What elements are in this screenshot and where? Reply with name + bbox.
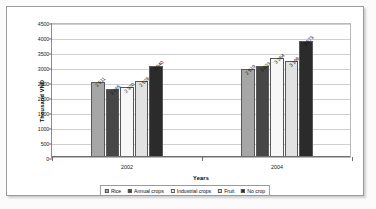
bar: [120, 87, 134, 157]
legend-label: No crop: [247, 188, 265, 194]
x-axis-line: [52, 156, 350, 157]
x-axis-category-label: 2002: [121, 164, 133, 170]
legend-label: Rice: [111, 188, 121, 194]
y-axis-tick-label: 1000: [38, 126, 49, 132]
bar: [256, 66, 270, 157]
x-axis-tick-mark: [352, 157, 353, 161]
y-axis-tick-label: 2500: [38, 81, 49, 87]
bar: [285, 61, 299, 157]
bars-layer: 2 5112 2652 3202 5283 0402 9193 0333 284…: [52, 24, 350, 157]
x-axis-title: Years: [51, 175, 351, 181]
legend-swatch-icon: [105, 189, 109, 193]
legend-label: Industrial crops: [177, 188, 211, 194]
legend-label: Fruit: [224, 188, 234, 194]
y-axis-tick-label: 4500: [38, 21, 49, 27]
legend-item: Fruit: [218, 188, 234, 194]
chart-page: Thousand VND 050010001500200025003000350…: [0, 0, 376, 209]
x-axis-tick-mark: [52, 157, 53, 161]
legend-swatch-icon: [171, 189, 175, 193]
x-axis-category-label: 2004: [271, 164, 283, 170]
legend-item: Annual crops: [128, 188, 164, 194]
plot-area: 050010001500200025003000350040004500 2 5…: [51, 23, 351, 158]
chart-outer-frame: Thousand VND 050010001500200025003000350…: [6, 6, 364, 196]
bar: [106, 89, 120, 157]
bar: [149, 66, 163, 157]
bar: [241, 69, 255, 157]
legend-item: Industrial crops: [171, 188, 211, 194]
legend-swatch-icon: [128, 189, 132, 193]
y-axis-tick-label: 2000: [38, 96, 49, 102]
legend-swatch-icon: [218, 189, 222, 193]
bar: [270, 58, 284, 157]
legend-item: No crop: [241, 188, 265, 194]
y-axis-tick-label: 4000: [38, 36, 49, 42]
bar: [299, 41, 313, 157]
x-axis-tick-mark: [202, 157, 203, 161]
bar: [91, 82, 105, 157]
y-axis-tick-label: 1500: [38, 111, 49, 117]
bar: [135, 81, 149, 157]
y-axis-tick-label: 3000: [38, 66, 49, 72]
chart-legend: RiceAnnual cropsIndustrial cropsFruitNo …: [100, 185, 270, 196]
legend-item: Rice: [105, 188, 121, 194]
y-axis-tick-label: 500: [41, 141, 49, 147]
legend-swatch-icon: [241, 189, 245, 193]
legend-label: Annual crops: [134, 188, 164, 194]
y-axis-tick-label: 3500: [38, 51, 49, 57]
